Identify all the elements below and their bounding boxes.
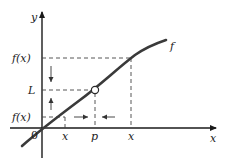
origin-label: 0: [31, 129, 38, 142]
open-circle-icon: [91, 86, 98, 93]
x-right-label: x: [128, 130, 135, 143]
fx-lower-label: f(x): [11, 111, 31, 124]
limit-diagram: y x f f(x) L f(x) 0 x p x: [0, 0, 226, 162]
limit-label: L: [27, 84, 35, 97]
fx-upper-label: f(x): [11, 52, 31, 65]
x-axis-label: x: [210, 132, 217, 145]
x-left-label: x: [62, 130, 69, 143]
y-axis-label: y: [30, 11, 38, 24]
p-label: p: [91, 130, 98, 143]
function-label: f: [169, 40, 176, 53]
